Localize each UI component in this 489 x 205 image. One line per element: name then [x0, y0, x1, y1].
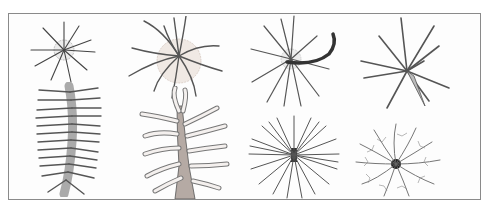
figure-radial-curved-spine — [249, 14, 344, 109]
figure-feathery-cluster — [354, 122, 444, 198]
figure-dense-radial-cluster — [247, 114, 342, 199]
figure-branching-stalk — [137, 86, 237, 199]
illustration-plate — [8, 13, 481, 200]
figure-small-radial-sphere — [29, 18, 99, 88]
figure-elongated-colony — [34, 82, 104, 197]
figure-long-spined-star — [359, 16, 459, 111]
